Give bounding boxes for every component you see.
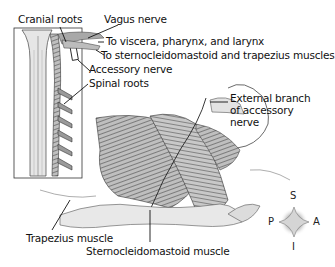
label-spinal-roots: Spinal roots (89, 78, 149, 89)
neck-muscles (96, 98, 240, 220)
label-to-scm-trapezius: To sternocleidomastoid and trapezius mus… (101, 50, 335, 61)
label-sternocleidomastoid-muscle: Sternocleidomastoid muscle (86, 246, 230, 257)
label-cranial-roots: Cranial roots (18, 14, 82, 25)
compass-anterior: A (313, 216, 320, 227)
compass-rose (279, 207, 309, 237)
compass-superior: S (290, 190, 296, 201)
compass-posterior: P (268, 216, 274, 227)
accessory-nerve-diagram: Cranial roots Vagus nerve To viscera, ph… (0, 0, 335, 267)
label-vagus-nerve: Vagus nerve (104, 14, 167, 25)
label-external-branch-line1: External branch (230, 93, 310, 104)
spinal-cord-inset (14, 28, 82, 178)
label-trapezius-muscle: Trapezius muscle (26, 233, 113, 244)
label-external-branch-line3: nerve (230, 117, 259, 128)
label-accessory-nerve: Accessory nerve (89, 64, 172, 75)
label-to-viscera: To viscera, pharynx, and larynx (106, 36, 264, 47)
label-external-branch-line2: of accessory (230, 105, 293, 116)
compass-inferior: I (292, 241, 295, 252)
